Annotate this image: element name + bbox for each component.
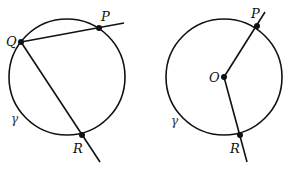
point-r — [79, 132, 85, 138]
label-gamma: γ — [11, 112, 19, 126]
line-qr — [21, 42, 100, 162]
label-r: R — [229, 141, 240, 156]
label-p: P — [100, 9, 110, 24]
point-o — [221, 74, 227, 80]
point-q — [18, 39, 24, 45]
label-gamma: γ — [171, 114, 179, 128]
line-op — [224, 12, 265, 77]
circle-gamma-left — [9, 19, 125, 135]
figure-inscribed-angle: Q P R γ — [6, 9, 125, 162]
point-p — [96, 25, 102, 31]
geometry-diagram: Q P R γ O P R γ — [0, 0, 291, 169]
figure-central-angle: O P R γ — [166, 6, 282, 162]
point-r — [237, 132, 243, 138]
line-qp — [21, 23, 124, 42]
label-p: P — [250, 6, 260, 21]
point-p — [254, 23, 260, 29]
label-o: O — [209, 70, 220, 85]
label-r: R — [72, 141, 83, 156]
label-q: Q — [6, 34, 17, 49]
